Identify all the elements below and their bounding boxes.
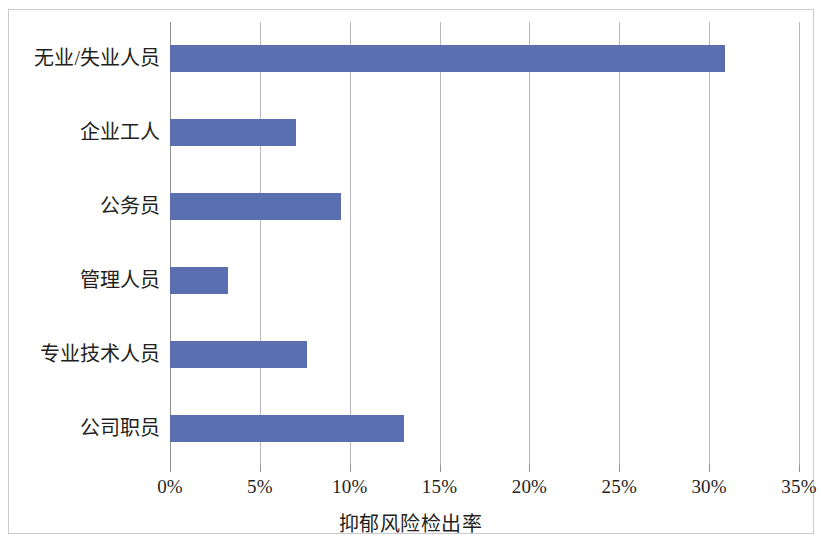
tick-mark-35% <box>799 465 800 472</box>
x-tick-label: 0% <box>157 476 183 498</box>
bar-row <box>170 193 799 220</box>
x-axis-title: 抑郁风险检出率 <box>0 508 821 537</box>
x-tick-label: 10% <box>332 476 367 498</box>
x-tick-label: 15% <box>422 476 457 498</box>
x-tick-label: 30% <box>691 476 726 498</box>
gridline-5% <box>260 22 261 465</box>
tick-mark-15% <box>440 465 441 472</box>
x-tick-label: 20% <box>512 476 547 498</box>
gridline-20% <box>529 22 530 465</box>
tick-mark-20% <box>529 465 530 472</box>
gridline-15% <box>440 22 441 465</box>
y-axis-label: 企业工人 <box>80 119 160 146</box>
bar <box>170 341 307 368</box>
y-axis-label: 专业技术人员 <box>40 341 160 368</box>
bar <box>170 45 725 72</box>
y-axis-label: 管理人员 <box>80 267 160 294</box>
x-tick-label: 25% <box>602 476 637 498</box>
bar-row <box>170 341 799 368</box>
plot-area <box>170 22 799 465</box>
gridline-0% <box>170 22 171 465</box>
gridline-35% <box>799 22 800 465</box>
tick-mark-25% <box>619 465 620 472</box>
y-axis-label: 无业/失业人员 <box>34 45 160 72</box>
gridline-10% <box>350 22 351 465</box>
bar-row <box>170 119 799 146</box>
x-tick-label: 35% <box>781 476 816 498</box>
tick-mark-0% <box>170 465 171 472</box>
tick-mark-30% <box>709 465 710 472</box>
bar-chart-figure: 无业/失业人员企业工人公务员管理人员专业技术人员公司职员 0%5%10%15%2… <box>0 0 821 543</box>
tick-mark-10% <box>350 465 351 472</box>
y-axis-label: 公司职员 <box>80 415 160 442</box>
bar-row <box>170 45 799 72</box>
bar <box>170 415 404 442</box>
gridline-30% <box>709 22 710 465</box>
bar-row <box>170 267 799 294</box>
gridline-25% <box>619 22 620 465</box>
x-tick-label: 5% <box>247 476 273 498</box>
y-axis-label: 公务员 <box>100 193 160 220</box>
y-axis-category-labels: 无业/失业人员企业工人公务员管理人员专业技术人员公司职员 <box>0 22 170 465</box>
x-axis-title-label: 抑郁风险检出率 <box>339 508 483 537</box>
bar <box>170 267 228 294</box>
bar-row <box>170 415 799 442</box>
tick-mark-5% <box>260 465 261 472</box>
bar <box>170 119 296 146</box>
bar <box>170 193 341 220</box>
